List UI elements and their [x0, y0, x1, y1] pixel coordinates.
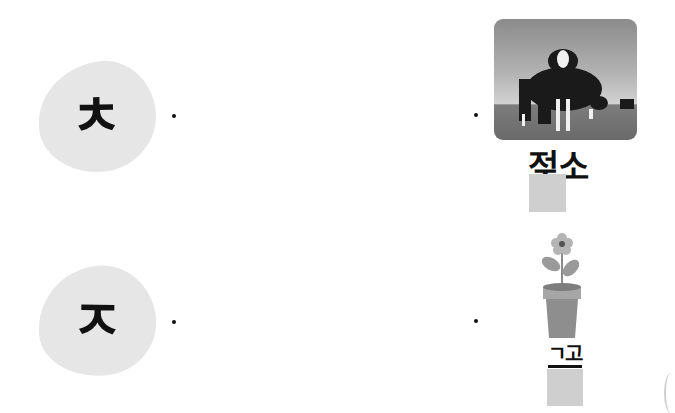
- match-dot-left-2[interactable]: [172, 320, 176, 324]
- consonant-card-2: ㅈ: [33, 260, 162, 382]
- consonant-card-1: ㅊ: [31, 54, 163, 179]
- match-dot-right-1[interactable]: [474, 113, 478, 117]
- page-edge-decoration: [664, 373, 675, 413]
- match-dot-left-1[interactable]: [172, 114, 176, 118]
- cow-photo: [494, 19, 637, 140]
- match-dot-right-2[interactable]: [474, 319, 478, 323]
- flowerpot-illustration: [540, 232, 584, 340]
- consonant-label: ㅊ: [71, 89, 124, 146]
- blank-box-1[interactable]: [529, 174, 566, 212]
- consonant-label: ㅈ: [71, 293, 124, 350]
- blank-box-2[interactable]: [547, 369, 583, 406]
- word-flowerpot: ㄱ고: [548, 344, 582, 368]
